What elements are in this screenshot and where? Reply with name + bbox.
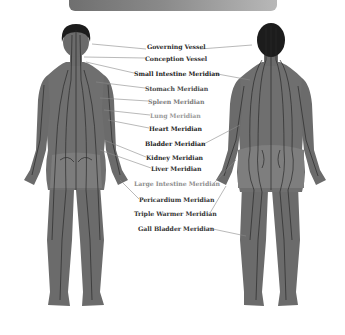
back-figure bbox=[216, 23, 326, 306]
label-kidney-meridian: Kidney Meridian bbox=[146, 154, 203, 161]
front-figure bbox=[24, 24, 128, 306]
label-lung-meridian: Lung Meridian bbox=[150, 112, 201, 119]
label-heart-meridian: Heart Meridian bbox=[149, 125, 202, 132]
label-triple-warmer-meridian: Triple Warmer Meridian bbox=[134, 210, 217, 217]
label-small-intestine-meridian: Small Intestine Meridian bbox=[134, 70, 220, 77]
label-large-intestine-meridian: Large Intestine Meridian bbox=[134, 180, 220, 187]
label-gall-bladder-meridian: Gall Bladder Meridian bbox=[138, 225, 214, 232]
label-pericardium-meridian: Pericardium Meridian bbox=[139, 196, 215, 203]
label-stomach-meridian: Stomach Meridian bbox=[145, 85, 208, 92]
label-bladder-meridian: Bladder Meridian bbox=[145, 140, 205, 147]
label-governing-vessel: Governing Vessel bbox=[147, 43, 206, 50]
label-spleen-meridian: Spleen Meridian bbox=[148, 98, 205, 105]
label-conception-vessel: Conception Vessel bbox=[145, 55, 207, 62]
label-liver-meridian: Liver Meridian bbox=[151, 165, 202, 172]
